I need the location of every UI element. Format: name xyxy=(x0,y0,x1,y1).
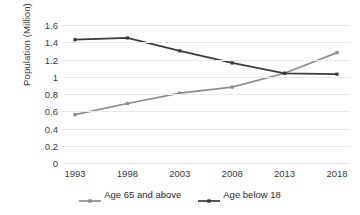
gridline xyxy=(62,60,350,61)
y-axis-tick-labels: 00.20.40.60.811.21.41.6 xyxy=(0,0,58,215)
y-axis-tick-label: 0.4 xyxy=(2,123,58,134)
data-point-marker xyxy=(73,38,76,41)
y-axis-tick-label: 1.6 xyxy=(2,20,58,31)
chart-legend: Age 65 and aboveAge below 18 xyxy=(0,189,360,200)
data-point-marker xyxy=(231,86,234,89)
data-point-marker xyxy=(178,49,181,52)
plot-area xyxy=(62,25,350,163)
line-chart: Population (Million) 00.20.40.60.811.21.… xyxy=(0,0,360,215)
legend-swatch-icon xyxy=(79,191,101,199)
data-point-marker xyxy=(283,72,286,75)
legend-item[interactable]: Age 65 and above xyxy=(79,189,181,200)
gridline xyxy=(62,94,350,95)
gridline xyxy=(62,111,350,112)
x-axis-tick-label: 2013 xyxy=(262,168,308,179)
y-axis-tick-label: 1.4 xyxy=(2,37,58,48)
y-axis-tick-label: 0.8 xyxy=(2,89,58,100)
x-axis-tick-label: 2003 xyxy=(157,168,203,179)
gridline xyxy=(62,25,350,26)
x-axis-tick-labels: 199319982003200820132018 xyxy=(62,168,350,184)
x-axis-tick-label: 1998 xyxy=(104,168,150,179)
gridline xyxy=(62,163,350,164)
data-point-marker xyxy=(231,61,234,64)
data-point-marker xyxy=(73,113,76,116)
y-axis-tick-label: 1.2 xyxy=(2,54,58,65)
gridline xyxy=(62,77,350,78)
legend-item[interactable]: Age below 18 xyxy=(198,189,281,200)
gridline xyxy=(62,146,350,147)
legend-label: Age below 18 xyxy=(223,189,281,200)
y-axis-tick-label: 0 xyxy=(2,158,58,169)
x-axis-tick-label: 1993 xyxy=(52,168,98,179)
series-line xyxy=(75,53,337,115)
data-point-marker xyxy=(335,51,338,54)
legend-label: Age 65 and above xyxy=(104,189,181,200)
x-axis-tick-label: 2008 xyxy=(209,168,255,179)
legend-swatch-icon xyxy=(198,191,220,199)
gridline xyxy=(62,42,350,43)
gridline xyxy=(62,129,350,130)
y-axis-tick-label: 0.2 xyxy=(2,140,58,151)
x-axis-tick-label: 2018 xyxy=(314,168,360,179)
y-axis-tick-label: 1 xyxy=(2,71,58,82)
data-point-marker xyxy=(126,102,129,105)
y-axis-tick-label: 0.6 xyxy=(2,106,58,117)
data-point-marker xyxy=(335,73,338,76)
data-point-marker xyxy=(126,36,129,39)
